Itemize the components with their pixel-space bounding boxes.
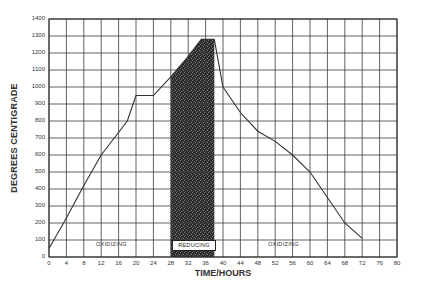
oxidizing-label-left: OXIDIZING [96,241,127,247]
y-tick-label: 1000 [21,83,45,89]
x-tick-label: 0 [41,260,57,266]
x-tick-label: 8 [76,260,92,266]
y-tick-label: 700 [21,134,45,140]
y-tick-label: 1300 [21,32,45,38]
oxidizing-label-right: OXIDIZING [268,241,299,247]
x-tick-label: 48 [250,260,266,266]
reducing-region-fill [171,39,215,257]
x-tick-label: 4 [58,260,74,266]
reducing-shade [171,39,215,257]
plot-grid [49,19,397,257]
y-tick-label: 900 [21,100,45,106]
reducing-label: REDUCING [172,240,216,251]
x-tick-label: 36 [198,260,214,266]
x-tick-label: 40 [215,260,231,266]
x-tick-label: 72 [354,260,370,266]
y-tick-label: 1100 [21,66,45,72]
x-tick-label: 68 [337,260,353,266]
x-tick-label: 60 [302,260,318,266]
y-tick-label: 100 [21,236,45,242]
x-tick-label: 44 [232,260,248,266]
y-tick-label: 400 [21,185,45,191]
x-tick-label: 76 [372,260,388,266]
y-tick-label: 200 [21,219,45,225]
y-tick-label: 800 [21,117,45,123]
x-axis-label: TIME/HOURS [195,268,252,278]
x-tick-label: 64 [319,260,335,266]
x-tick-label: 56 [285,260,301,266]
x-tick-label: 52 [267,260,283,266]
y-tick-label: 600 [21,151,45,157]
x-tick-label: 20 [128,260,144,266]
x-tick-label: 32 [180,260,196,266]
x-tick-label: 12 [93,260,109,266]
y-tick-label: 500 [21,168,45,174]
x-tick-label: 24 [145,260,161,266]
x-tick-label: 16 [111,260,127,266]
y-tick-label: 300 [21,202,45,208]
y-axis-label: DEGREES CENTIGRADE [9,83,19,193]
x-tick-label: 80 [389,260,405,266]
y-tick-label: 0 [21,253,45,259]
x-tick-label: 28 [163,260,179,266]
y-tick-label: 1400 [21,15,45,21]
y-tick-label: 1200 [21,49,45,55]
